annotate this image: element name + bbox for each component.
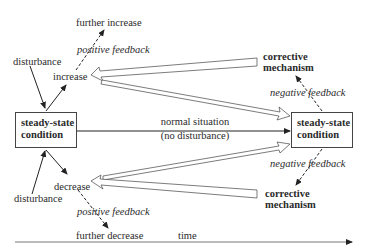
left-steady-state-box: steady-state condition bbox=[15, 112, 77, 148]
increase-label: increase bbox=[53, 71, 87, 82]
negative-feedback-bottom-label: negative feedback bbox=[270, 158, 346, 169]
positive-feedback-top-label: positive feedback bbox=[77, 44, 150, 55]
left-box-line1: steady-state bbox=[21, 117, 76, 129]
normal-situation-label: normal situation bbox=[140, 116, 250, 127]
further-decrease-label: further decrease bbox=[76, 230, 143, 241]
right-box-line1: steady-state bbox=[297, 117, 352, 129]
right-steady-state-box: steady-state condition bbox=[291, 112, 353, 148]
corrective-top-line2: mechanism bbox=[263, 62, 314, 73]
right-box-line2: condition bbox=[297, 129, 352, 141]
positive-feedback-bottom-label: positive feedback bbox=[77, 206, 150, 217]
negative-feedback-top-label: negative feedback bbox=[270, 87, 346, 98]
corrective-top-line1: corrective bbox=[263, 51, 308, 62]
corrective-bottom-line1: corrective bbox=[265, 188, 310, 199]
disturbance-bottom-label: disturbance bbox=[14, 193, 62, 204]
corrective-bottom-line2: mechanism bbox=[265, 199, 316, 210]
further-increase-label: further increase bbox=[76, 17, 142, 28]
decrease-label: decrease bbox=[54, 181, 90, 192]
time-axis-label: time bbox=[178, 230, 197, 241]
left-box-line2: condition bbox=[21, 129, 76, 141]
disturbance-top-label: disturbance bbox=[13, 56, 61, 67]
no-disturbance-label: (no disturbance) bbox=[140, 130, 250, 141]
